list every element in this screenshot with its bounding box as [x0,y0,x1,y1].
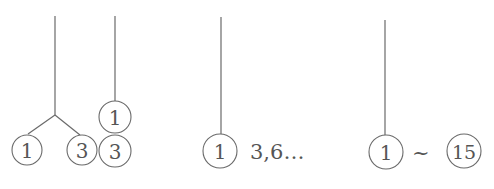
node-label: 1 [21,139,34,163]
diagram-canvas: 1 3 1 3 1 3,6… 1 ~ [0,0,494,189]
node-label: 1 [214,140,227,164]
sequence-text: 3,6… [250,140,304,164]
node-label: 3 [76,139,89,163]
node-circle: 3 [99,135,131,167]
node-circle: 1 [203,134,237,168]
tree-branch-left [28,115,55,134]
node-circle: 15 [447,134,481,168]
node-circle: 1 [99,101,131,133]
range-separator: ~ [412,141,430,165]
panel-1: 1 3 1 3 [12,16,131,167]
node-label: 1 [109,106,122,130]
node-circle: 1 [12,135,42,165]
node-label: 1 [380,141,393,165]
node-circle: 1 [369,135,403,169]
node-label: 3 [109,140,122,164]
tree-branch-right [55,115,80,135]
node-label: 15 [452,141,476,163]
panel-2: 1 3,6… [203,17,304,168]
node-circle: 3 [67,135,97,165]
panel-3: 1 ~ 15 [369,20,481,169]
